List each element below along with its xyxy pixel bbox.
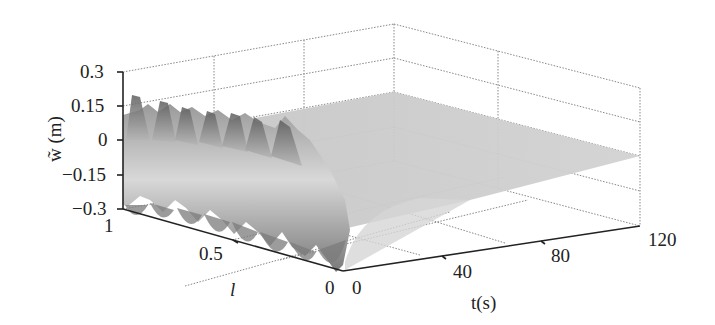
t-tick-120: 120 — [648, 230, 677, 249]
t-tick-40: 40 — [453, 262, 472, 281]
z-tick-0.3: 0.3 — [80, 62, 104, 81]
t-axis-label: t(s) — [471, 293, 496, 312]
l-tick-0.5: 0.5 — [199, 244, 223, 263]
l-tick-1: 1 — [104, 216, 114, 235]
t-tick-0: 0 — [352, 278, 362, 297]
z-axis-label: w̃ (m) — [44, 104, 66, 174]
z-tick-0.15: 0.15 — [71, 96, 104, 115]
t-tick-80: 80 — [551, 246, 570, 265]
l-axis-label: l — [230, 280, 235, 299]
l-tick-0: 0 — [325, 278, 335, 297]
z-tick-neg0.3: −0.3 — [72, 199, 106, 218]
z-tick-0: 0 — [98, 130, 108, 149]
z-tick-neg0.15: −0.15 — [62, 165, 106, 184]
